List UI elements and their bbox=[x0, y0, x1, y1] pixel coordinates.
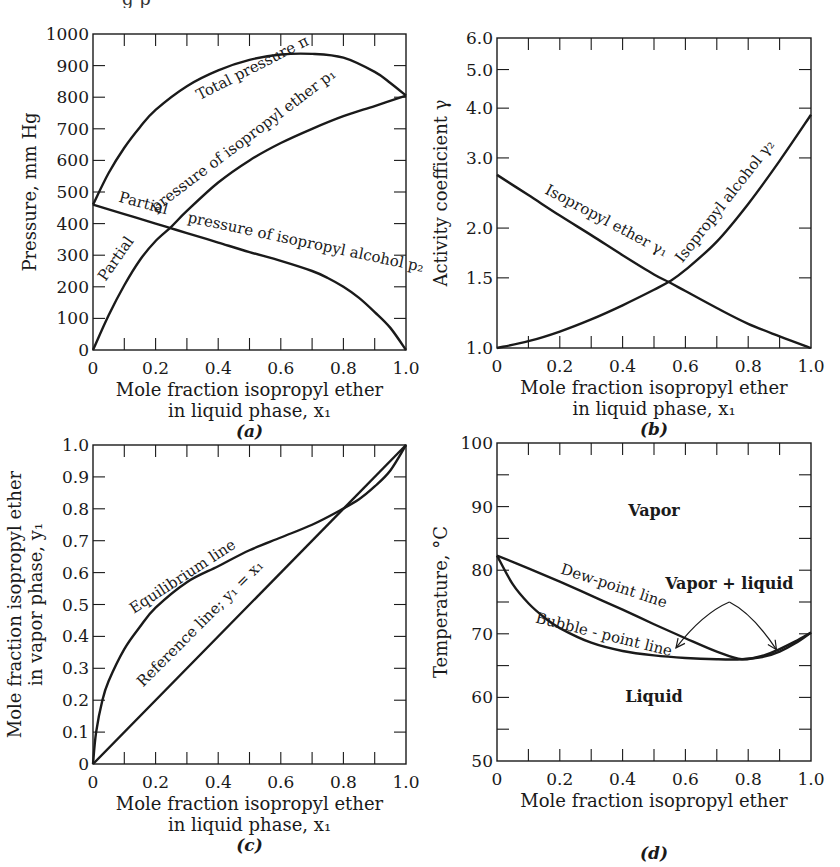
curve-annotation: Bubble - point line bbox=[534, 609, 674, 660]
chart-panel-b: 00.20.40.60.81.01.01.52.03.04.05.06.0Mol… bbox=[430, 28, 825, 439]
y-tick-label: 0.9 bbox=[62, 467, 89, 487]
curve-annotation: pressure of isopropyl alcohol p₂ bbox=[186, 208, 425, 276]
x-tick-label: 0 bbox=[492, 769, 503, 789]
curve-annotation: Vapor + liquid bbox=[664, 574, 793, 593]
y-axis-label-line2: in vapor phase, y₁ bbox=[25, 523, 46, 686]
y-tick-label: 700 bbox=[57, 119, 89, 139]
y-tick-label: 0 bbox=[78, 340, 89, 360]
y-tick-label: 4.0 bbox=[466, 98, 493, 118]
x-tick-label: 0.4 bbox=[609, 769, 636, 789]
curve-annotation: Partial bbox=[94, 233, 138, 285]
x-tick-label: 0.4 bbox=[205, 358, 232, 378]
y-tick-label: 0.7 bbox=[62, 531, 89, 551]
annotation-arrow bbox=[676, 602, 729, 648]
x-tick-label: 0 bbox=[88, 358, 99, 378]
panel-label: (c) bbox=[236, 835, 262, 855]
x-axis-label-line2: in liquid phase, x₁ bbox=[168, 814, 331, 835]
x-tick-label: 0.8 bbox=[330, 358, 357, 378]
x-tick-label: 0.6 bbox=[672, 356, 699, 376]
y-tick-label: 0.5 bbox=[62, 595, 89, 615]
y-tick-label: 0.8 bbox=[62, 499, 89, 519]
x-axis-label: Mole fraction isopropyl ether bbox=[116, 793, 384, 814]
chart-panel-d: 00.20.40.60.81.05060708090100Mole fracti… bbox=[430, 433, 825, 863]
y-axis-label: Mole fraction isopropyl ether bbox=[4, 470, 25, 738]
curve-annotation: Isopropyl ether γ₁ bbox=[542, 181, 671, 261]
y-tick-label: 80 bbox=[471, 560, 493, 580]
y-tick-label: 90 bbox=[471, 497, 493, 517]
y-tick-label: 1000 bbox=[46, 24, 89, 44]
y-tick-label: 100 bbox=[57, 308, 89, 328]
y-tick-label: 6.0 bbox=[466, 28, 493, 48]
y-tick-label: 800 bbox=[57, 87, 89, 107]
x-tick-label: 1.0 bbox=[797, 356, 824, 376]
y-tick-label: 60 bbox=[471, 687, 493, 707]
x-axis-label-line2: in liquid phase, x₁ bbox=[572, 398, 735, 419]
panel-label: (b) bbox=[640, 419, 668, 439]
y-tick-label: 0.2 bbox=[62, 690, 89, 710]
x-tick-label: 0.8 bbox=[735, 356, 762, 376]
annotation-arrow bbox=[729, 602, 776, 650]
y-tick-label: 200 bbox=[57, 277, 89, 297]
y-tick-label: 2.0 bbox=[466, 218, 493, 238]
curve-annotation: Dew-point line bbox=[559, 560, 670, 611]
x-tick-label: 0.4 bbox=[609, 356, 636, 376]
x-tick-label: 0.4 bbox=[205, 772, 232, 792]
y-tick-label: 500 bbox=[57, 182, 89, 202]
y-axis-label: Activity coefficient γ bbox=[430, 99, 451, 287]
y-tick-label: 1.0 bbox=[466, 338, 493, 358]
x-tick-label: 0.2 bbox=[142, 358, 169, 378]
x-tick-label: 0.6 bbox=[267, 772, 294, 792]
curve-annotation: Liquid bbox=[625, 687, 682, 706]
y-tick-label: 0.3 bbox=[62, 658, 89, 678]
curve-annotation: Isopropyl alcohol γ₂ bbox=[671, 136, 778, 266]
chart-panel-a: 00.20.40.60.81.0010020030040050060070080… bbox=[19, 24, 425, 441]
y-tick-label: 0.1 bbox=[62, 722, 89, 742]
x-axis-label: Mole fraction isopropyl ether bbox=[520, 377, 788, 398]
y-tick-label: 5.0 bbox=[466, 60, 493, 80]
x-tick-label: 0.8 bbox=[735, 769, 762, 789]
x-tick-label: 0 bbox=[88, 772, 99, 792]
y-tick-label: 600 bbox=[57, 150, 89, 170]
curve-annotation: pressure of isopropyl ether p₁ bbox=[147, 65, 339, 216]
panel-label: (d) bbox=[640, 843, 668, 863]
x-tick-label: 0.2 bbox=[546, 769, 573, 789]
y-tick-label: 50 bbox=[471, 751, 493, 771]
y-tick-label: 70 bbox=[471, 624, 493, 644]
y-tick-label: 0.6 bbox=[62, 563, 89, 583]
y-tick-label: 1.5 bbox=[466, 268, 493, 288]
panel-label: (a) bbox=[236, 421, 263, 441]
x-axis-label: Mole fraction isopropyl ether bbox=[116, 379, 384, 400]
x-axis-label: Mole fraction isopropyl ether bbox=[520, 790, 788, 811]
x-tick-label: 0 bbox=[492, 356, 503, 376]
chart-panel-c: 00.20.40.60.81.000.10.20.30.40.50.60.70.… bbox=[4, 435, 420, 855]
x-tick-label: 0.2 bbox=[142, 772, 169, 792]
y-tick-label: 0 bbox=[78, 754, 89, 774]
figure-four-panel-vle-charts: 00.20.40.60.81.0010020030040050060070080… bbox=[0, 0, 840, 867]
curve-annotation: Reference line; y₁ = x₁ bbox=[133, 556, 267, 690]
x-tick-label: 0.6 bbox=[672, 769, 699, 789]
x-tick-label: 1.0 bbox=[392, 358, 419, 378]
y-tick-label: 1.0 bbox=[62, 435, 89, 455]
y-axis-label: Pressure, mm Hg bbox=[19, 112, 40, 271]
y-tick-label: 300 bbox=[57, 245, 89, 265]
x-axis-label-line2: in liquid phase, x₁ bbox=[168, 400, 331, 421]
x-tick-label: 1.0 bbox=[797, 769, 824, 789]
y-axis-label: Temperature, °C bbox=[430, 526, 451, 678]
series-line-isopropyl-ether bbox=[497, 175, 811, 348]
x-tick-label: 0.8 bbox=[330, 772, 357, 792]
y-tick-label: 100 bbox=[461, 433, 493, 453]
y-tick-label: 400 bbox=[57, 214, 89, 234]
curve-annotation: Vapor bbox=[627, 501, 680, 520]
y-tick-label: 3.0 bbox=[466, 148, 493, 168]
x-tick-label: 0.2 bbox=[546, 356, 573, 376]
y-tick-label: 0.4 bbox=[62, 626, 89, 646]
y-tick-label: 900 bbox=[57, 56, 89, 76]
x-tick-label: 1.0 bbox=[392, 772, 419, 792]
x-tick-label: 0.6 bbox=[267, 358, 294, 378]
